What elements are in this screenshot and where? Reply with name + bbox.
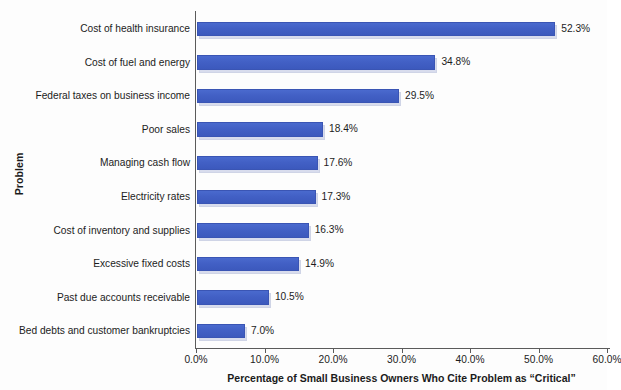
x-axis-tick-label: 60.0% bbox=[593, 354, 621, 365]
x-axis-tick bbox=[196, 348, 197, 353]
x-axis-title: Percentage of Small Business Owners Who … bbox=[196, 372, 607, 384]
bar: 34.8% bbox=[197, 55, 435, 70]
bar: 16.3% bbox=[197, 223, 309, 238]
bar-row: Poor sales18.4% bbox=[196, 113, 607, 147]
bar: 29.5% bbox=[197, 89, 399, 104]
bar-fill bbox=[197, 257, 299, 272]
bar-value-label: 17.3% bbox=[322, 190, 351, 205]
bar-row: Bed debts and customer bankruptcies7.0% bbox=[196, 314, 607, 348]
x-axis-tick bbox=[607, 348, 608, 353]
category-label: Electricity rates bbox=[121, 180, 190, 214]
x-axis-tick-label: 30.0% bbox=[387, 354, 416, 365]
bar-value-label: 14.9% bbox=[305, 257, 334, 272]
bar-row: Cost of fuel and energy34.8% bbox=[196, 46, 607, 80]
bar: 17.6% bbox=[197, 156, 318, 171]
x-axis-tick-label: 20.0% bbox=[319, 354, 348, 365]
y-axis-title: Problem bbox=[8, 0, 30, 348]
bar: 7.0% bbox=[197, 324, 245, 339]
category-label: Cost of inventory and supplies bbox=[54, 214, 190, 248]
x-axis-tick-label: 40.0% bbox=[456, 354, 485, 365]
category-label: Past due accounts receivable bbox=[57, 281, 190, 315]
bar-value-label: 7.0% bbox=[251, 324, 274, 339]
bar-value-label: 10.5% bbox=[275, 290, 304, 305]
bar-fill bbox=[197, 190, 316, 205]
category-label: Poor sales bbox=[142, 113, 190, 147]
category-label: Cost of health insurance bbox=[80, 12, 190, 46]
x-axis-tick bbox=[402, 348, 403, 353]
bar-fill bbox=[197, 223, 309, 238]
bar: 52.3% bbox=[197, 22, 555, 37]
bar-fill bbox=[197, 324, 245, 339]
category-label: Managing cash flow bbox=[100, 146, 190, 180]
category-label: Excessive fixed costs bbox=[93, 247, 190, 281]
category-label: Federal taxes on business income bbox=[35, 79, 190, 113]
x-axis-tick bbox=[470, 348, 471, 353]
bar-fill bbox=[197, 156, 318, 171]
bar-fill bbox=[197, 89, 399, 104]
bar-fill bbox=[197, 22, 555, 37]
category-label: Cost of fuel and energy bbox=[85, 46, 190, 80]
x-axis-tick bbox=[265, 348, 266, 353]
bar-value-label: 52.3% bbox=[561, 22, 590, 37]
x-axis-tick bbox=[539, 348, 540, 353]
bar-row: Past due accounts receivable10.5% bbox=[196, 281, 607, 315]
bar-value-label: 34.8% bbox=[441, 55, 470, 70]
bar-row: Cost of inventory and supplies16.3% bbox=[196, 214, 607, 248]
y-axis-title-label: Problem bbox=[13, 153, 25, 196]
bar-row: Managing cash flow17.6% bbox=[196, 146, 607, 180]
bar-fill bbox=[197, 122, 323, 137]
x-axis-tick-label: 10.0% bbox=[250, 354, 279, 365]
bar-fill bbox=[197, 55, 435, 70]
bar: 17.3% bbox=[197, 190, 316, 205]
bar-row: Cost of health insurance52.3% bbox=[196, 12, 607, 46]
bar: 10.5% bbox=[197, 290, 269, 305]
x-axis-tick bbox=[333, 348, 334, 353]
bar: 18.4% bbox=[197, 122, 323, 137]
x-axis-tick-label: 0.0% bbox=[184, 354, 207, 365]
bar-fill bbox=[197, 290, 269, 305]
bar-value-label: 17.6% bbox=[324, 156, 353, 171]
x-axis-line bbox=[195, 348, 610, 349]
bar-row: Excessive fixed costs14.9% bbox=[196, 247, 607, 281]
bar-row: Federal taxes on business income29.5% bbox=[196, 79, 607, 113]
bar: 14.9% bbox=[197, 257, 299, 272]
plot-area: Cost of health insurance52.3%Cost of fue… bbox=[196, 12, 607, 348]
bar-value-label: 29.5% bbox=[405, 89, 434, 104]
x-axis-tick-label: 50.0% bbox=[524, 354, 553, 365]
bar-value-label: 16.3% bbox=[315, 223, 344, 238]
bar-value-label: 18.4% bbox=[329, 122, 358, 137]
bar-row: Electricity rates17.3% bbox=[196, 180, 607, 214]
category-label: Bed debts and customer bankruptcies bbox=[19, 314, 190, 348]
